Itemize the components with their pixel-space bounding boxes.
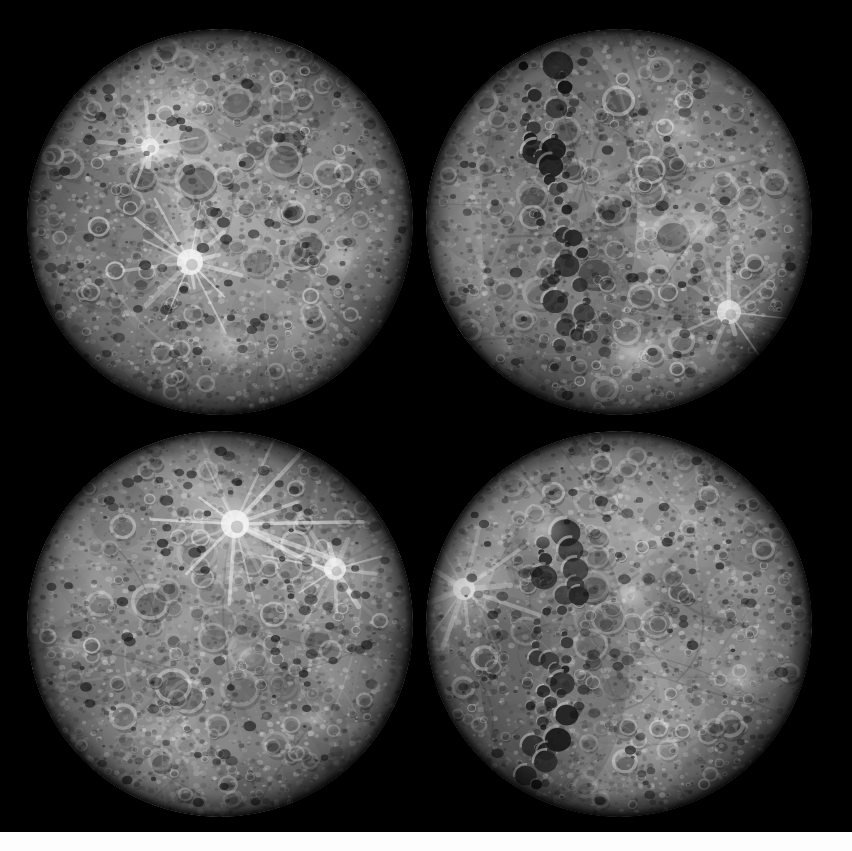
mercury-view-top-left (27, 29, 413, 415)
mercury-mosaic-canvas: Mercury Global Mosaic — Four Rotational … (0, 0, 852, 851)
mercury-view-bottom-right (426, 431, 812, 817)
mercury-view-top-right (426, 29, 812, 415)
bottom-white-strip (0, 832, 852, 851)
mercury-view-bottom-left (27, 431, 413, 817)
